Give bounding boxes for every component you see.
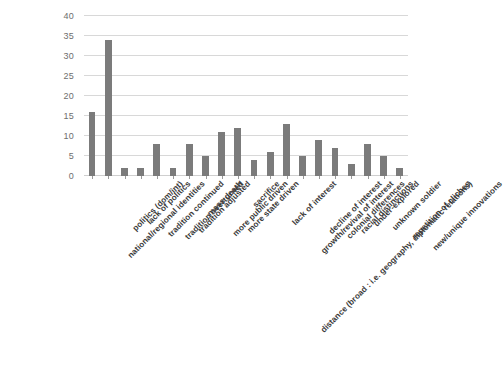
bar-series (84, 16, 408, 176)
x-axis-tick (92, 176, 93, 179)
bar (202, 156, 209, 176)
x-axis-tick (270, 176, 271, 179)
x-axis-tick (141, 176, 142, 179)
bar (251, 160, 258, 176)
bar (396, 168, 403, 176)
plot-area (84, 16, 408, 176)
y-axis-tick-label: 30 (64, 51, 74, 61)
x-axis-tick (125, 176, 126, 179)
x-axis-tick (254, 176, 255, 179)
y-axis-tick-label: 10 (64, 131, 74, 141)
y-axis-tick-label: 0 (69, 171, 74, 181)
x-axis-tick (173, 176, 174, 179)
bar (299, 156, 306, 176)
y-axis-tick-label: 15 (64, 111, 74, 121)
bar (348, 164, 355, 176)
bar (186, 144, 193, 176)
y-axis-tick-labels: 0510152025303540 (0, 16, 80, 176)
bar (380, 156, 387, 176)
bar (234, 128, 241, 176)
bar (332, 148, 339, 176)
bar (137, 168, 144, 176)
bar (105, 40, 112, 176)
y-axis-tick-label: 35 (64, 31, 74, 41)
y-axis-tick-label: 40 (64, 11, 74, 21)
y-axis-tick-label: 20 (64, 91, 74, 101)
bar (315, 140, 322, 176)
x-axis-category-label: repetition of cliches (411, 180, 472, 241)
x-axis-tick (222, 176, 223, 179)
x-axis-category-labels: national/regional identitiespolitics (do… (84, 180, 408, 370)
bar (218, 132, 225, 176)
x-axis-tick (368, 176, 369, 179)
x-axis-tick (335, 176, 336, 179)
bar (170, 168, 177, 176)
bar (121, 168, 128, 176)
y-axis-tick-label: 5 (69, 151, 74, 161)
x-axis-tick (303, 176, 304, 179)
y-axis-tick-label: 25 (64, 71, 74, 81)
bar (283, 124, 290, 176)
x-axis-tick (287, 176, 288, 179)
x-axis-tick (351, 176, 352, 179)
bar (153, 144, 160, 176)
x-axis-tick (108, 176, 109, 179)
bar (364, 144, 371, 176)
x-axis-category-label-text: repetition of cliches (411, 180, 472, 241)
x-axis-tick (384, 176, 385, 179)
x-axis-tick (189, 176, 190, 179)
x-axis-tick (319, 176, 320, 179)
bar (89, 112, 96, 176)
bar (267, 152, 274, 176)
x-axis-tick (157, 176, 158, 179)
x-axis-tick (206, 176, 207, 179)
